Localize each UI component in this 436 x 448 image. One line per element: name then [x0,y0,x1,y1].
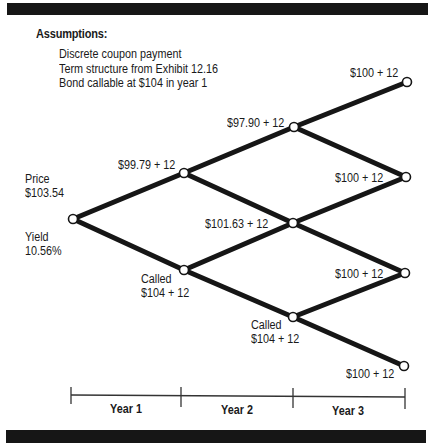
node-y2-up-label: $97.90 + 12 [227,116,284,130]
node-y3-4 [400,362,409,371]
node-y2-down-label-2: $104 + 12 [251,332,299,346]
node-y3-3 [401,269,410,278]
node-y1-down-label-2: $104 + 12 [141,286,189,300]
node-y3-1 [403,78,412,87]
node-y3-3-label: $100 + 12 [335,267,383,281]
node-y3-4-label: $100 + 12 [346,367,394,381]
root-yield-label: Yield [25,230,49,244]
timeline-label-year-1: Year 1 [90,402,162,416]
node-y3-2 [402,173,411,182]
root-yield-value: 10.56% [25,244,62,258]
node-root [69,215,78,224]
node-y1-down [180,266,189,275]
node-y1-down-label-1: Called [141,272,172,286]
node-y2-up [290,123,299,132]
node-y2-down-label-1: Called [251,318,282,332]
bottom-rule [6,430,426,443]
node-y3-2-label: $100 + 12 [335,171,383,185]
root-price-label: Price [25,172,50,186]
node-y2-mid [289,219,298,228]
timeline-label-year-2: Year 2 [201,403,273,417]
root-price-value: $103.54 [25,186,64,200]
node-y2-mid-label: $101.63 + 12 [205,217,268,231]
node-y2-down [289,313,298,322]
node-y1-up [180,169,189,178]
node-y3-1-label: $100 + 12 [350,66,398,80]
node-y1-up-label: $99.79 + 12 [118,158,175,172]
timeline-label-year-3: Year 3 [312,404,384,418]
